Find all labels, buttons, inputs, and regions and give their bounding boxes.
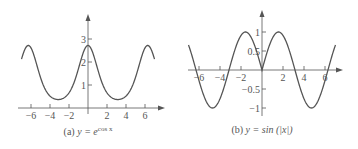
chart-caption: (b) y = sin (|x|) bbox=[231, 124, 293, 136]
y-tick-label: 1 bbox=[81, 80, 86, 91]
x-tick-label: −4 bbox=[45, 110, 56, 121]
x-tick-label: −2 bbox=[64, 110, 75, 121]
y-axis-arrow-icon bbox=[86, 14, 91, 21]
caption-equation: y = sin (|x|) bbox=[245, 124, 294, 136]
figure: −6−4−2246123(a) y = ecos x−6−4−2246−1−0.… bbox=[0, 0, 358, 149]
x-tick-label: −2 bbox=[236, 72, 247, 83]
chart-a: −6−4−2246123(a) y = ecos x bbox=[18, 14, 165, 138]
chart-b: −6−4−2246−1−0.50.51(b) y = sin (|x|) bbox=[188, 10, 343, 136]
y-tick-label: −1 bbox=[249, 103, 260, 114]
caption-label: (a) bbox=[64, 126, 78, 138]
caption-label: (b) bbox=[231, 124, 245, 136]
x-tick-label: 4 bbox=[124, 110, 129, 121]
x-tick-label: 2 bbox=[281, 72, 286, 83]
x-axis-arrow-icon bbox=[336, 68, 343, 73]
caption-equation: y = e bbox=[76, 126, 98, 137]
x-tick-label: −4 bbox=[215, 72, 226, 83]
chart-caption: (a) y = ecos x bbox=[64, 125, 113, 138]
x-axis-arrow-icon bbox=[158, 106, 165, 111]
x-tick-label: 2 bbox=[105, 110, 110, 121]
x-tick-label: 6 bbox=[143, 110, 148, 121]
y-tick-label: −0.5 bbox=[242, 84, 260, 95]
x-tick-label: −6 bbox=[26, 110, 37, 121]
y-axis-arrow-icon bbox=[260, 10, 265, 17]
caption-exponent: cos x bbox=[98, 125, 113, 133]
y-tick-label: 1 bbox=[255, 27, 260, 38]
y-tick-label: 3 bbox=[81, 34, 86, 45]
x-tick-label: 4 bbox=[302, 72, 307, 83]
